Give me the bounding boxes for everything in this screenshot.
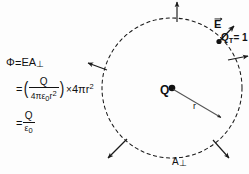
paren-open: ( bbox=[23, 78, 28, 99]
test-charge-label: QT= 1 bbox=[221, 33, 248, 44]
field-vector-label: E bbox=[214, 19, 221, 30]
field-arrow-right bbox=[228, 56, 248, 60]
result-numerator-Q: Q bbox=[23, 110, 35, 121]
area-label-text: A bbox=[172, 156, 179, 167]
coulomb-field-fraction: Q 4πε0r2 bbox=[29, 76, 59, 103]
result-denominator: ε0 bbox=[23, 123, 35, 135]
sphere-area-exponent: 2 bbox=[90, 82, 94, 91]
vector-arrow-accent-icon bbox=[214, 16, 223, 21]
flux-equation-block: Φ=EA⊥ =( Q 4πε0r2 )×4πr2 = Q ε0 bbox=[6, 56, 126, 121]
area-label: A⊥ bbox=[172, 157, 187, 168]
field-arrow-lower-right bbox=[213, 140, 229, 158]
denominator-coeff: 4πε bbox=[31, 91, 46, 101]
flux-symbol: Φ bbox=[6, 56, 15, 68]
equation-line-2: =( Q 4πε0r2 )×4πr2 bbox=[16, 76, 136, 103]
paren-close: ) bbox=[60, 78, 65, 99]
denominator-exponent: 2 bbox=[53, 89, 57, 98]
fraction-numerator-Q: Q bbox=[29, 76, 59, 87]
radius-label: r bbox=[193, 102, 196, 111]
test-charge-symbol: Q bbox=[221, 32, 229, 43]
area-label-perp-subscript: ⊥ bbox=[179, 158, 187, 168]
equation-line-1: Φ=EA⊥ bbox=[6, 56, 126, 69]
field-arrow-lower-left bbox=[108, 139, 127, 158]
epsilon-zero-subscript: 0 bbox=[28, 126, 32, 135]
radius-line bbox=[174, 90, 222, 118]
central-charge-label: Q bbox=[160, 84, 169, 96]
perp-subscript-1: ⊥ bbox=[36, 59, 44, 69]
sphere-area-factor: 4πr bbox=[72, 83, 90, 95]
gauss-law-figure: Φ=EA⊥ =( Q 4πε0r2 )×4πr2 = Q ε0 E QT= 1 … bbox=[0, 0, 249, 174]
times-symbol: × bbox=[65, 84, 72, 95]
result-fraction: Q ε0 bbox=[23, 110, 35, 135]
field-E: E bbox=[21, 56, 28, 68]
test-charge-value: = 1 bbox=[233, 32, 247, 43]
equation-line-3: = Q ε0 bbox=[16, 111, 136, 136]
equals-2: = bbox=[16, 83, 23, 95]
fraction-denominator: 4πε0r2 bbox=[29, 89, 59, 103]
